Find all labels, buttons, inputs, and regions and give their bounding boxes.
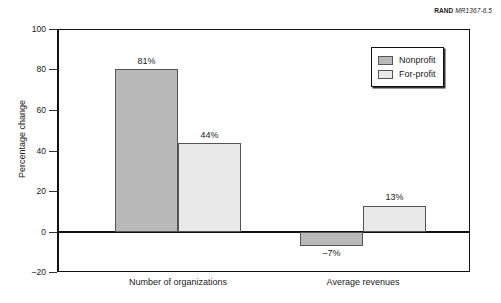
y-axis-tick-label: –20	[32, 268, 46, 277]
y-axis-tick	[49, 232, 57, 233]
y-axis-tick	[49, 110, 57, 111]
bar-nonprofit-average-revenues	[300, 232, 363, 246]
figure-source-number: MR1367-6.5	[455, 7, 492, 14]
y-axis-tick-label: 0	[41, 228, 46, 237]
legend-item-nonprofit: Nonprofit	[378, 53, 436, 67]
figure-source-organization: RAND	[434, 7, 453, 14]
x-axis-group-label-average-revenues: Average revenues	[283, 277, 443, 287]
bar-value-label-forprofit-number-of-organizations: 44%	[178, 130, 241, 140]
bar-forprofit-average-revenues	[363, 206, 426, 232]
bar-nonprofit-number-of-organizations	[115, 69, 178, 232]
bar-value-label-nonprofit-number-of-organizations: 81%	[115, 56, 178, 66]
y-axis-title: Percentage change	[17, 69, 27, 209]
x-axis-group-label-number-of-organizations: Number of organizations	[98, 277, 258, 287]
bar-forprofit-number-of-organizations	[178, 143, 241, 232]
legend-swatch-nonprofit	[378, 56, 393, 65]
y-axis-tick-label: 80	[37, 65, 46, 74]
y-axis-tick-label: 60	[37, 106, 46, 115]
legend-label-nonprofit: Nonprofit	[399, 55, 436, 65]
y-axis-tick-label: 20	[37, 187, 46, 196]
y-axis-tick-label: 40	[37, 147, 46, 156]
y-axis-tick	[49, 29, 57, 30]
legend-swatch-forprofit	[378, 70, 393, 79]
y-axis-tick-label: 100	[32, 25, 46, 34]
y-axis-tick	[49, 69, 57, 70]
y-axis-tick	[49, 151, 57, 152]
y-axis-tick	[49, 191, 57, 192]
legend-item-forprofit: For-profit	[378, 67, 436, 81]
figure-source-id: RAND MR1367-6.5	[434, 7, 492, 14]
chart-legend: Nonprofit For-profit	[371, 47, 444, 87]
y-axis-line	[57, 29, 59, 272]
legend-label-forprofit: For-profit	[399, 69, 436, 79]
y-axis-tick	[49, 272, 57, 273]
bar-value-label-nonprofit-average-revenues: –7%	[300, 248, 363, 258]
bar-value-label-forprofit-average-revenues: 13%	[363, 192, 426, 202]
